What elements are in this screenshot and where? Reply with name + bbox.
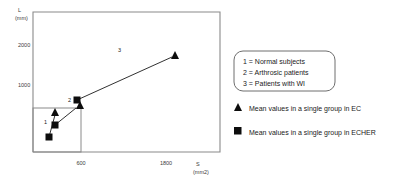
y-axis-unit: (mm): [15, 15, 28, 21]
y-tick-label-2000: 2000: [18, 42, 30, 48]
data-point-echer-group-2: [52, 122, 59, 129]
connector-group-3: [77, 57, 172, 100]
x-axis-title: S: [196, 161, 200, 167]
y-tick-label-1000: 1000: [18, 82, 30, 88]
data-point-ec-group-3: [171, 51, 179, 59]
group-label-2: 2: [68, 97, 71, 103]
legend-group-line-2: 2 = Arthrosic patients: [243, 69, 309, 77]
data-point-ec-group-1: [51, 108, 59, 116]
x-tick-label-1800: 1800: [160, 160, 172, 166]
group-label-1: 1: [44, 119, 47, 125]
figure-container: L (mm) 2000 1000 600 1800 S (mm2) 1 2 3 …: [0, 0, 413, 185]
legend-triangle-icon: [234, 103, 242, 111]
x-axis-unit: (mm2): [193, 169, 209, 175]
group-label-3: 3: [118, 47, 121, 53]
x-tick-label-600: 600: [76, 160, 85, 166]
plot-frame: [33, 12, 220, 152]
legend-group-line-1: 1 = Normal subjects: [243, 58, 306, 66]
legend-square-icon: [234, 127, 242, 135]
data-point-echer-group-1: [46, 134, 53, 141]
scatter-chart: L (mm) 2000 1000 600 1800 S (mm2) 1 2 3 …: [0, 0, 413, 185]
y-axis-title: L: [18, 7, 21, 13]
legend-entry-echer-label: Mean values in a single group in ECHER: [249, 129, 376, 137]
plot-frame-outline: [33, 12, 220, 152]
legend-group-line-3: 3 = Patients with WI: [243, 80, 305, 87]
legend-entry-ec-label: Mean values in a single group in EC: [249, 105, 361, 113]
